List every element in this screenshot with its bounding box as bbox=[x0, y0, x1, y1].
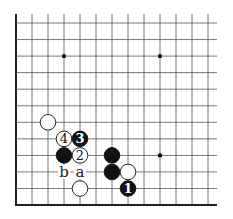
move-number: 3 bbox=[75, 131, 84, 146]
move-number: 4 bbox=[60, 131, 68, 146]
white-stone bbox=[120, 164, 136, 180]
point-label-b: b bbox=[59, 163, 69, 181]
star-point bbox=[62, 54, 66, 58]
stone-disc bbox=[72, 181, 88, 197]
white-stone: 4 bbox=[56, 131, 72, 147]
stone-disc bbox=[56, 148, 72, 164]
stone-disc bbox=[40, 115, 56, 131]
move-number: 2 bbox=[76, 148, 84, 163]
stone-disc bbox=[104, 148, 120, 164]
black-stone: 3 bbox=[72, 131, 88, 147]
star-point bbox=[158, 153, 162, 157]
stone-disc bbox=[104, 164, 120, 180]
move-number: 1 bbox=[123, 181, 132, 196]
white-stone bbox=[72, 181, 88, 197]
black-stone: 1 bbox=[120, 181, 136, 197]
black-stone bbox=[104, 148, 120, 164]
black-stone bbox=[104, 164, 120, 180]
stone-disc bbox=[120, 164, 136, 180]
star-point bbox=[158, 54, 162, 58]
white-stone: 2 bbox=[72, 148, 88, 164]
go-board: ba 4321 bbox=[0, 0, 233, 219]
point-label-a: a bbox=[76, 163, 85, 181]
black-stone bbox=[56, 148, 72, 164]
white-stone bbox=[40, 115, 56, 131]
